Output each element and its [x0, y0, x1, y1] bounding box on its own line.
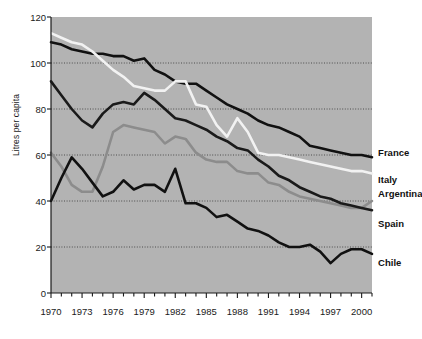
x-axis-tick-labels: 1970197319761979198219851988199119941997… — [0, 306, 420, 322]
series-label-chile: Chile — [378, 257, 401, 268]
series-label-italy: Italy — [378, 174, 397, 185]
x-axis-tick-label: 1979 — [134, 306, 155, 317]
y-axis-tick-label: 80 — [20, 104, 46, 115]
y-axis-tick-label: 40 — [20, 196, 46, 207]
x-axis-tick-label: 1985 — [196, 306, 217, 317]
x-axis-tick-label: 1982 — [165, 306, 186, 317]
x-axis-tick-label: 1997 — [320, 306, 341, 317]
y-axis-tick-label: 20 — [20, 242, 46, 253]
x-axis-tick-label: 1988 — [227, 306, 248, 317]
x-axis-tick-label: 1991 — [258, 306, 279, 317]
x-axis-tick-label: 1973 — [71, 306, 92, 317]
series-label-spain: Spain — [378, 218, 404, 229]
y-axis-tick-label: 0 — [20, 288, 46, 299]
series-label-argentina: Argentina — [378, 188, 422, 199]
x-axis-tick-label: 1976 — [103, 306, 124, 317]
x-axis-tick-label: 1970 — [40, 306, 61, 317]
y-axis-tick-labels: 020406080100120 — [18, 0, 46, 339]
x-axis-tick-label: 2000 — [351, 306, 372, 317]
y-axis-tick-label: 120 — [20, 12, 46, 23]
series-label-france: France — [378, 147, 409, 158]
x-axis-tick-label: 1994 — [289, 306, 310, 317]
y-axis-tick-label: 100 — [20, 58, 46, 69]
y-axis-tick-label: 60 — [20, 150, 46, 161]
